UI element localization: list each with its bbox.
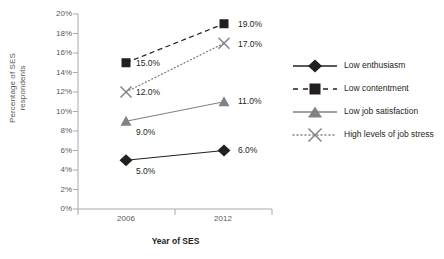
triangle-solid-line-icon	[292, 104, 338, 120]
legend-item-low-job-satisfaction: Low job satisfaction	[292, 104, 444, 127]
x-dotted-line-icon	[292, 127, 338, 143]
series-line-low-job-satisfaction	[126, 102, 224, 122]
x-tick-label-2012: 2012	[188, 214, 258, 223]
data-label-low-job-satisfaction-2012: 11.0%	[238, 96, 261, 106]
data-label-low-contentment-2006: 15.0%	[136, 58, 160, 68]
series-line-low-enthusiasm	[126, 151, 224, 161]
chart-legend: Low enthusiasm Low contentment Low job s…	[292, 58, 444, 150]
series-marker-low-contentment-2012	[220, 19, 229, 28]
series-marker-high-job-stress-2012	[219, 38, 230, 49]
legend-label-low-contentment: Low contentment	[344, 83, 409, 93]
data-label-low-job-satisfaction-2006: 9.0%	[136, 127, 155, 137]
series-marker-low-enthusiasm-2006	[120, 154, 133, 166]
data-label-low-contentment-2012: 19.0%	[238, 19, 262, 29]
legend-label-low-job-satisfaction: Low job satisfaction	[344, 106, 418, 116]
series-line-low-contentment	[126, 24, 224, 63]
legend-item-high-job-stress: High levels of job stress	[292, 127, 444, 150]
series-marker-low-contentment-2006	[122, 58, 131, 67]
x-axis-title: Year of SES	[78, 236, 273, 246]
line-chart: Percentage of SES respondents 0% 2% 4% 6…	[0, 0, 444, 259]
square-dashed-line-icon	[292, 81, 338, 97]
data-label-low-enthusiasm-2006: 5.0%	[136, 166, 155, 176]
y-tick-marks	[73, 14, 78, 209]
data-label-high-job-stress-2012: 17.0%	[238, 39, 262, 49]
data-label-high-job-stress-2006: 12.0%	[136, 87, 160, 97]
diamond-solid-line-icon	[292, 58, 338, 74]
series-marker-low-job-satisfaction-2012	[219, 96, 230, 106]
series-marker-high-job-stress-2006	[121, 87, 132, 98]
legend-label-low-enthusiasm: Low enthusiasm	[344, 60, 405, 70]
legend-item-low-enthusiasm: Low enthusiasm	[292, 58, 444, 81]
legend-item-low-contentment: Low contentment	[292, 81, 444, 104]
series-marker-low-enthusiasm-2012	[218, 145, 231, 157]
x-tick-label-2006: 2006	[91, 214, 161, 223]
legend-label-high-job-stress: High levels of job stress	[344, 129, 434, 139]
data-label-low-enthusiasm-2012: 6.0%	[238, 145, 257, 155]
